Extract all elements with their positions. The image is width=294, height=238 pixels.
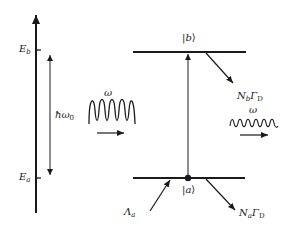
label-Eb: Eb [19,44,31,56]
label-state-a: |a⟩ [182,185,195,195]
energy-level-diagram [0,0,294,238]
label-incoming-omega: ω [104,88,112,98]
label-outgoing-omega: ω [249,105,257,115]
lower-decay-arrow [206,179,235,210]
label-lower-decay: NaΓD [239,208,265,220]
label-pump: Λa [124,207,135,219]
ground-state-dot [185,175,191,181]
pump-arrow [150,180,170,211]
label-upper-decay: NbΓD [237,91,263,103]
outgoing-wave-icon [230,119,278,127]
upper-decay-arrow [206,53,233,83]
label-hbar-omega0: ħω0 [55,110,74,122]
label-state-b: |b⟩ [182,33,196,43]
incoming-wave-icon [89,100,135,125]
label-Ea: Ea [19,172,31,184]
